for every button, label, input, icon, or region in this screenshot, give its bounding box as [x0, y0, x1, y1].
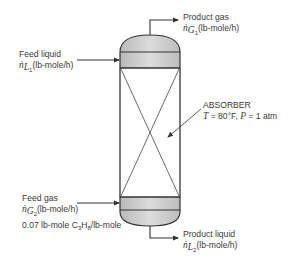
feed-gas-composition: 0.07 lb-mole C3H8/lb-mole	[22, 220, 121, 234]
packing-cross	[121, 69, 179, 196]
absorber-label: ABSORBER T = 80°F, P = 1 atm	[203, 100, 277, 122]
product-liquid-flow: ṅL2(lb-mole/h)	[183, 240, 237, 256]
product-gas-label: Product gas ṅG1(lb-mole/h)	[183, 12, 239, 39]
product-liquid-label: Product liquid ṅL2(lb-mole/h)	[183, 229, 237, 256]
feed-gas-name: Feed gas	[22, 193, 121, 204]
product-liquid-name: Product liquid	[183, 229, 237, 240]
product-gas-name: Product gas	[183, 12, 239, 23]
product-gas-flow: ṅG1(lb-mole/h)	[183, 23, 239, 39]
bottom-head	[120, 197, 180, 226]
feed-liquid-flow: ṅL1(lb-mole/h)	[19, 60, 73, 76]
feed-liquid-label: Feed liquid ṅL1(lb-mole/h)	[19, 49, 73, 76]
absorber-conditions: T = 80°F, P = 1 atm	[203, 111, 277, 122]
feed-gas-flow: ṅG2(lb-mole/h)	[22, 204, 121, 220]
absorber-name: ABSORBER	[203, 100, 277, 111]
feed-liquid-name: Feed liquid	[19, 49, 73, 60]
product-gas-line	[150, 20, 178, 35]
product-liquid-line	[150, 226, 178, 238]
feed-gas-label: Feed gas ṅG2(lb-mole/h) 0.07 lb-mole C3H…	[22, 193, 121, 234]
top-head	[120, 35, 180, 68]
absorber-leader-line	[168, 109, 201, 137]
